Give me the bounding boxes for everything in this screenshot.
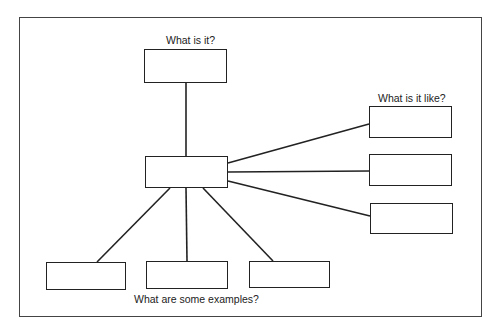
property-box-1[interactable] bbox=[369, 106, 452, 138]
definition-box[interactable] bbox=[144, 49, 227, 83]
example-box-1[interactable] bbox=[46, 262, 126, 290]
center-concept-box[interactable] bbox=[145, 156, 228, 188]
label-what-are-some-examples: What are some examples? bbox=[134, 293, 259, 305]
property-box-2[interactable] bbox=[369, 154, 452, 186]
edge-center-example-2 bbox=[186, 188, 187, 261]
edge-center-example-3 bbox=[203, 188, 273, 261]
label-what-is-it: What is it? bbox=[166, 34, 215, 46]
example-box-3[interactable] bbox=[249, 261, 330, 288]
edge-center-property-3 bbox=[228, 181, 370, 216]
edge-center-property-1 bbox=[228, 124, 369, 163]
label-what-is-it-like: What is it like? bbox=[378, 92, 446, 104]
edge-center-example-1 bbox=[97, 188, 170, 262]
property-box-3[interactable] bbox=[370, 203, 453, 234]
example-box-2[interactable] bbox=[146, 261, 228, 289]
edge-center-property-2 bbox=[228, 171, 369, 172]
